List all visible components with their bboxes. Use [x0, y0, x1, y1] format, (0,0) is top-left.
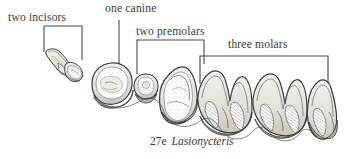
- tooth-row-group: [92, 63, 337, 141]
- label-two-premolars: two premolars: [136, 26, 205, 38]
- caption-number: 27e: [150, 135, 167, 147]
- tooth-molar-1: [198, 71, 252, 135]
- figure-caption: 27eLasionycteris: [150, 136, 234, 148]
- label-two-incisors: two incisors: [8, 12, 66, 24]
- incisor-group: [46, 49, 83, 82]
- label-one-canine: one canine: [105, 3, 157, 15]
- label-three-molars: three molars: [228, 39, 288, 51]
- tooth-molar-2: [253, 74, 307, 138]
- tooth-molar-3: [307, 80, 337, 139]
- tooth-incisor-2: [65, 62, 83, 81]
- caption-species: Lasionycteris: [172, 135, 234, 147]
- tooth-canine: [92, 63, 133, 108]
- tooth-row-figure: two incisors one canine two premolars th…: [0, 0, 344, 159]
- bracket-premolars: [137, 40, 204, 74]
